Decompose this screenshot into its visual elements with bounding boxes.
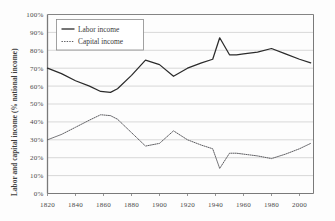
series-line-capital-income <box>48 115 311 169</box>
y-tick-label: 20% <box>30 154 43 162</box>
x-tick-label: 1840 <box>68 201 83 209</box>
y-tick-label: 80% <box>30 47 43 55</box>
y-tick-label: 0% <box>34 190 44 198</box>
x-tick-label: 1920 <box>180 201 195 209</box>
legend-label-labor-income: Labor income <box>78 25 120 34</box>
line-chart-plot: 0%10%20%30%40%50%60%70%80%90%100% 182018… <box>0 0 335 221</box>
y-tick-label: 90% <box>30 29 43 37</box>
x-tick-label: 1880 <box>124 201 139 209</box>
y-tick-label: 100% <box>26 11 43 19</box>
y-tick-label: 60% <box>30 83 43 91</box>
x-tick-label: 1860 <box>96 201 111 209</box>
x-tick-label: 1960 <box>236 201 251 209</box>
x-tick-label: 2000 <box>292 201 307 209</box>
x-tick-labels-group: 1820184018601880190019201940196019802000 <box>40 201 307 209</box>
y-tick-label: 10% <box>30 172 43 180</box>
data-series-group <box>48 38 311 169</box>
y-tick-labels-group: 0%10%20%30%40%50%60%70%80%90%100% <box>26 11 43 198</box>
y-tick-label: 40% <box>30 118 43 126</box>
chart-figure: Labor and capital income (% national inc… <box>0 0 335 221</box>
x-tick-label: 1980 <box>264 201 279 209</box>
x-tick-label: 1940 <box>208 201 223 209</box>
legend-label-capital-income: Capital income <box>78 37 124 46</box>
chart-legend: Labor incomeCapital income <box>57 20 144 51</box>
x-tick-label: 1820 <box>40 201 55 209</box>
y-tick-label: 30% <box>30 136 43 144</box>
x-tick-label: 1900 <box>152 201 167 209</box>
y-tick-label: 70% <box>30 65 43 73</box>
y-tick-label: 50% <box>30 100 43 108</box>
